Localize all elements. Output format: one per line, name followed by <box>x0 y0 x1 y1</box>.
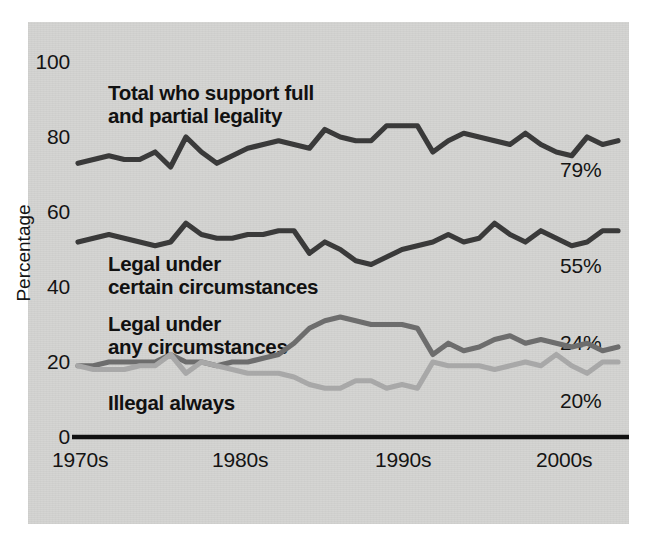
series-line-1 <box>78 223 618 264</box>
chart-plot-area <box>0 0 657 546</box>
series-line-0 <box>78 126 618 167</box>
chart-page: 100 80 60 40 20 0 Percentage 1970s 1980s… <box>0 0 657 546</box>
series-line-2 <box>78 317 618 366</box>
